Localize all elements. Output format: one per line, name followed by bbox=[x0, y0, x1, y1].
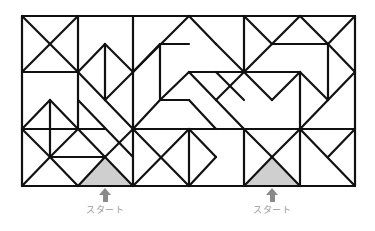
maze-wall bbox=[244, 72, 272, 100]
maze-wall bbox=[22, 129, 50, 157]
maze-wall bbox=[189, 72, 216, 100]
start-triangle bbox=[244, 157, 300, 186]
maze-wall bbox=[244, 129, 272, 157]
maze-wall bbox=[244, 44, 272, 72]
maze-wall bbox=[133, 44, 160, 72]
maze-wall bbox=[328, 129, 355, 157]
maze-wall bbox=[272, 16, 300, 44]
maze-wall bbox=[22, 100, 50, 129]
maze-wall bbox=[50, 157, 78, 186]
maze-wall bbox=[328, 44, 355, 72]
maze-wall bbox=[50, 100, 78, 129]
arrow-shaft bbox=[103, 195, 108, 202]
maze-wall bbox=[133, 100, 160, 129]
maze-wall bbox=[160, 72, 189, 100]
start-marker-right: スタート bbox=[242, 188, 302, 216]
start-label: スタート bbox=[86, 203, 124, 216]
maze-wall bbox=[216, 100, 244, 129]
arrow-up-icon bbox=[266, 188, 278, 195]
maze-wall bbox=[105, 44, 133, 72]
maze-lines bbox=[22, 16, 355, 186]
maze-wall bbox=[300, 100, 328, 129]
maze-wall bbox=[78, 129, 105, 157]
maze-wall bbox=[216, 44, 244, 72]
arrow-shaft bbox=[270, 195, 275, 202]
maze-wall bbox=[300, 16, 328, 44]
arrow-up-icon bbox=[99, 188, 111, 195]
maze-wall bbox=[244, 16, 272, 44]
maze-wall bbox=[78, 72, 105, 100]
maze-wall bbox=[300, 72, 328, 100]
maze-wall bbox=[328, 16, 355, 44]
maze-wall bbox=[50, 129, 78, 157]
maze-wall bbox=[189, 129, 216, 157]
triangle-maze-board bbox=[0, 0, 375, 231]
start-label: スタート bbox=[253, 203, 291, 216]
maze-wall bbox=[189, 100, 216, 129]
maze-wall bbox=[78, 44, 105, 72]
start-marker-left: スタート bbox=[75, 188, 135, 216]
maze-wall bbox=[189, 157, 216, 186]
maze-wall bbox=[105, 72, 133, 100]
maze-wall bbox=[328, 72, 355, 100]
maze-wall bbox=[189, 16, 216, 44]
maze-wall bbox=[272, 72, 300, 100]
maze-wall bbox=[22, 157, 50, 186]
maze-wall bbox=[272, 129, 300, 157]
maze-wall bbox=[105, 100, 133, 129]
start-triangle bbox=[78, 157, 133, 186]
